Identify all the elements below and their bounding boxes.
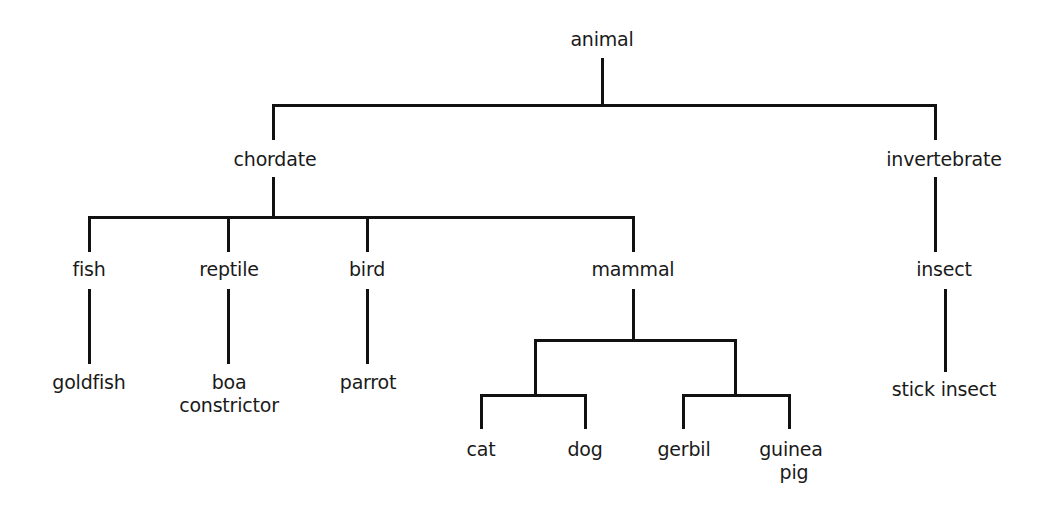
leaf-stick-insect: stick insect	[892, 378, 997, 401]
connector-boa	[227, 289, 230, 364]
taxonomy-tree-diagram: animal chordate invertebrate fish reptil…	[0, 0, 1054, 510]
connector-invertebrate-down	[934, 177, 937, 252]
connector-animal-stem	[601, 58, 604, 106]
leaf-boa-line1: boa	[179, 371, 279, 394]
leaf-boa-line2: constrictor	[179, 394, 279, 417]
leaf-guinea-line1: guinea	[759, 438, 823, 461]
leaf-guinea-pig: guinea pig	[759, 438, 823, 484]
node-mammal: mammal	[592, 258, 675, 281]
connector-parrot	[366, 289, 369, 364]
connector-chordate-up	[272, 104, 275, 140]
connector-mammal-down	[632, 289, 635, 340]
connector-mammal-bar	[534, 339, 737, 342]
leaf-guinea-line2: pig	[759, 461, 823, 484]
connector-gerbil	[682, 394, 685, 429]
connector-invertebrate-up	[934, 104, 937, 140]
leaf-boa-constrictor: boa constrictor	[179, 371, 279, 417]
leaf-dog: dog	[567, 438, 602, 461]
connector-mammal-up	[632, 216, 635, 252]
connector-cat	[480, 394, 483, 429]
connector-guinea-pig	[788, 394, 791, 429]
leaf-parrot: parrot	[340, 371, 396, 394]
node-insect: insect	[916, 258, 972, 281]
connector-bird-up	[366, 216, 369, 252]
node-reptile: reptile	[199, 258, 258, 281]
node-fish: fish	[72, 258, 105, 281]
node-bird: bird	[349, 258, 385, 281]
leaf-goldfish: goldfish	[52, 371, 125, 394]
node-chordate: chordate	[234, 148, 317, 171]
node-invertebrate: invertebrate	[886, 148, 1001, 171]
connector-goldfish	[88, 289, 91, 364]
leaf-gerbil: gerbil	[658, 438, 711, 461]
connector-stick-insect	[944, 289, 947, 372]
connector-dog	[584, 394, 587, 429]
connector-animal-bar	[272, 104, 937, 107]
connector-fish-up	[88, 216, 91, 252]
connector-reptile-up	[227, 216, 230, 252]
connector-chordate-bar	[88, 216, 635, 219]
connector-catdog-up	[534, 339, 537, 395]
node-animal: animal	[570, 28, 633, 51]
leaf-cat: cat	[467, 438, 496, 461]
connector-rodent-up	[734, 339, 737, 395]
connector-catdog-bar	[480, 394, 587, 397]
connector-rodent-bar	[682, 394, 791, 397]
connector-chordate-down	[272, 177, 275, 218]
